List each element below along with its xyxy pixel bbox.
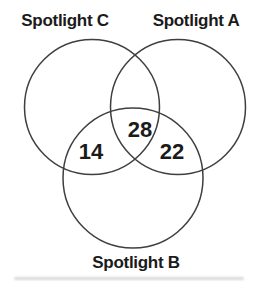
region-count-c-and-b: 14 [79, 139, 103, 165]
spotlight-c-label: Spotlight C [21, 11, 108, 31]
region-count-a-b-c: 28 [128, 117, 152, 143]
spotlight-a-label: Spotlight A [153, 11, 240, 31]
venn-diagram: Spotlight C Spotlight A Spotlight B 14 2… [0, 0, 260, 282]
spotlight-b-label: Spotlight B [92, 253, 179, 273]
region-count-a-and-b: 22 [160, 139, 184, 165]
scan-artifact-line [14, 277, 244, 280]
